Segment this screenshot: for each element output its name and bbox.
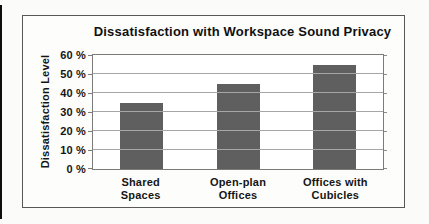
x-category-label: Shared Spaces bbox=[92, 176, 189, 201]
y-tick-mark bbox=[88, 168, 92, 169]
chart-title: Dissatisfaction with Workspace Sound Pri… bbox=[83, 24, 402, 39]
y-tick-label: 60 % bbox=[23, 49, 86, 61]
y-tick-labels: 0 %10 %20 %30 %40 %50 %60 % bbox=[23, 54, 86, 170]
y-tick-mark bbox=[88, 93, 92, 94]
y-tick-mark bbox=[88, 55, 92, 56]
y-tick-mark-right bbox=[384, 112, 387, 113]
y-tick-label: 50 % bbox=[23, 68, 86, 80]
y-tick-mark-right bbox=[384, 55, 387, 56]
y-tick-label: 40 % bbox=[23, 87, 86, 99]
y-tick-mark-right bbox=[384, 74, 387, 75]
y-tick-label: 10 % bbox=[23, 144, 86, 156]
y-tick-mark-right bbox=[384, 131, 387, 132]
y-tick-mark-right bbox=[384, 150, 387, 151]
x-category-label: Offices with Cubicles bbox=[287, 176, 384, 201]
gridline bbox=[93, 92, 383, 93]
gridline bbox=[93, 111, 383, 112]
y-tick-mark bbox=[88, 74, 92, 75]
y-tick-mark-right bbox=[384, 93, 387, 94]
page: Dissatisfaction with Workspace Sound Pri… bbox=[0, 0, 429, 224]
y-tick-label: 20 % bbox=[23, 125, 86, 137]
chart-container: Dissatisfaction with Workspace Sound Pri… bbox=[22, 15, 405, 208]
x-category-label: Open-plan Offices bbox=[189, 176, 286, 201]
x-axis-labels: Shared SpacesOpen-plan OfficesOffices wi… bbox=[92, 176, 384, 201]
bar-shared-spaces bbox=[120, 103, 163, 170]
gridline bbox=[93, 149, 383, 150]
y-tick-mark bbox=[88, 150, 92, 151]
gridline bbox=[93, 130, 383, 131]
y-tick-mark bbox=[88, 131, 92, 132]
y-tick-label: 30 % bbox=[23, 106, 86, 118]
gridline bbox=[93, 73, 383, 74]
y-tick-label: 0 % bbox=[23, 163, 86, 175]
plot-area bbox=[92, 54, 384, 170]
scan-edge-artifact bbox=[0, 5, 2, 219]
bar-offices-with-cubicles bbox=[313, 65, 356, 170]
y-tick-mark bbox=[88, 112, 92, 113]
bar-open-plan-offices bbox=[217, 84, 260, 170]
y-tick-mark-right bbox=[384, 168, 387, 169]
